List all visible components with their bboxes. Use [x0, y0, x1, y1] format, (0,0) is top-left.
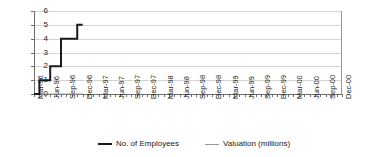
y-tick-mark — [31, 66, 34, 67]
x-tick-mark — [34, 94, 35, 97]
x-tick-label: Jun-99 — [248, 76, 256, 99]
x-tick-mark — [229, 94, 230, 97]
x-tick-mark — [288, 94, 289, 97]
x-tick-mark — [142, 94, 143, 97]
x-tick-mark — [83, 94, 84, 97]
x-tick-label: Mar-98 — [167, 75, 175, 99]
legend-label: No. of Employees — [116, 140, 179, 148]
x-tick-label: Dec-99 — [280, 75, 288, 99]
x-tick-mark — [77, 94, 78, 97]
x-tick-label: Mar-97 — [102, 75, 110, 99]
y-tick-mark — [31, 11, 34, 12]
x-tick-mark — [99, 94, 100, 97]
x-tick-label: Sep-98 — [199, 75, 207, 99]
x-tick-mark — [126, 94, 127, 97]
legend-line-icon — [205, 144, 219, 145]
y-tick-label: 2 — [24, 62, 48, 70]
y-tick-mark — [31, 80, 34, 81]
x-tick-label: Sep-96 — [69, 75, 77, 99]
y-tick-label: 3 — [24, 49, 48, 57]
x-tick-label: Sep-99 — [264, 75, 272, 99]
y-tick-mark — [31, 53, 34, 54]
x-tick-mark — [310, 94, 311, 97]
gridline — [34, 25, 341, 26]
gridline — [34, 11, 341, 12]
y-tick-label: 6 — [24, 7, 48, 15]
x-tick-label: Jun-97 — [118, 76, 126, 99]
x-tick-mark — [196, 94, 197, 97]
x-tick-label: Jun-98 — [183, 76, 191, 99]
x-tick-mark — [164, 94, 165, 97]
x-tick-mark — [245, 94, 246, 97]
x-tick-mark — [115, 94, 116, 97]
x-tick-label: Mar-96 — [37, 75, 45, 99]
y-tick-label: 5 — [24, 21, 48, 29]
x-tick-label: Dec-96 — [86, 75, 94, 99]
x-tick-label: Dec-98 — [215, 75, 223, 99]
legend-line-icon — [98, 143, 112, 145]
y-tick-mark — [31, 25, 34, 26]
x-tick-mark — [207, 94, 208, 97]
legend-label: Valuation (millions) — [223, 140, 290, 148]
x-tick-label: Sep-00 — [329, 75, 337, 99]
x-tick-label: Jun-96 — [53, 76, 61, 99]
x-tick-label: Sep-97 — [134, 75, 142, 99]
x-tick-label: Mar-99 — [232, 75, 240, 99]
y-tick-mark — [31, 39, 34, 40]
x-tick-mark — [342, 94, 343, 97]
gridline — [34, 39, 341, 40]
x-tick-mark — [180, 94, 181, 97]
x-tick-label: Dec-00 — [345, 75, 353, 99]
x-tick-mark — [277, 94, 278, 97]
x-tick-label: Mar-00 — [296, 75, 304, 99]
x-tick-label: Jun-00 — [313, 76, 321, 99]
x-tick-mark — [61, 94, 62, 97]
y-tick-label: 4 — [24, 35, 48, 43]
x-tick-mark — [326, 94, 327, 97]
x-tick-mark — [304, 94, 305, 97]
x-tick-mark — [158, 94, 159, 97]
chart-legend: No. of Employees Valuation (millions) — [0, 140, 388, 148]
x-tick-label: Dec-97 — [150, 75, 158, 99]
gridline — [34, 53, 341, 54]
chart-container: 6 5 4 3 2 1 0 Mar-96Jun-96Sep-96Dec-96Ma… — [0, 0, 388, 157]
x-tick-mark — [261, 94, 262, 97]
x-tick-mark — [223, 94, 224, 97]
legend-entry-valuation: Valuation (millions) — [205, 140, 290, 148]
legend-entry-employees: No. of Employees — [98, 140, 179, 148]
gridline — [34, 66, 341, 67]
